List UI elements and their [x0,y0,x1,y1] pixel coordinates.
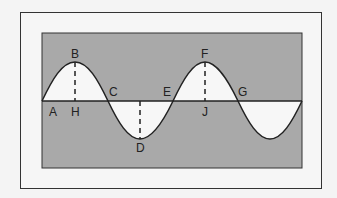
label-h: H [71,106,80,118]
label-c: C [109,86,118,98]
label-f: F [201,48,208,60]
label-b: B [71,48,79,60]
label-j: J [202,106,208,118]
wave-diagram [0,0,337,198]
label-e: E [163,86,171,98]
label-a: A [49,106,57,118]
label-g: G [238,86,247,98]
label-d: D [136,142,145,154]
